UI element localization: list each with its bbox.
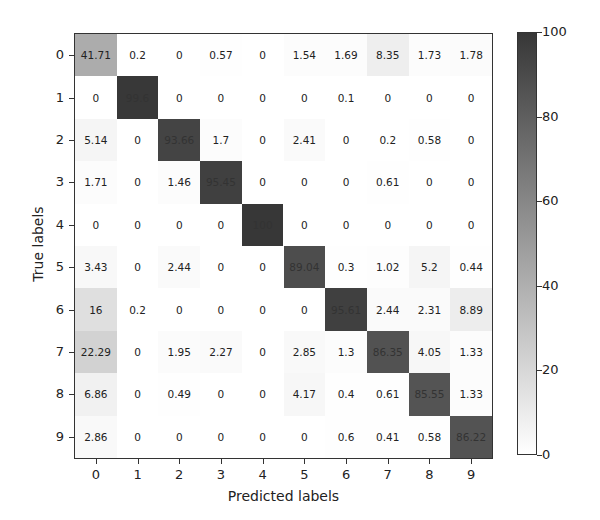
- y-tick-label: 1: [44, 90, 64, 105]
- matrix-cell: 2.44: [158, 246, 200, 288]
- y-tick-mark: [69, 98, 74, 99]
- matrix-cell: 0: [284, 416, 326, 458]
- matrix-cell: 0: [242, 161, 284, 203]
- matrix-cell: 2.31: [409, 288, 451, 330]
- colorbar-tick-label: 80: [542, 109, 559, 124]
- matrix-cell: 0: [367, 204, 409, 246]
- matrix-cell: 0: [158, 34, 200, 76]
- colorbar-tick-mark: [537, 370, 542, 371]
- matrix-cell: 0: [450, 76, 492, 118]
- matrix-cell: 22.29: [75, 331, 117, 373]
- colorbar-tick-mark: [537, 117, 542, 118]
- x-tick-label: 1: [128, 467, 148, 482]
- matrix-cell: 0.4: [325, 373, 367, 415]
- matrix-cell: 0: [117, 204, 159, 246]
- matrix-cell: 4.17: [284, 373, 326, 415]
- y-tick-mark: [69, 352, 74, 353]
- y-tick-mark: [69, 225, 74, 226]
- matrix-cell: 0: [75, 76, 117, 118]
- matrix-cell: 16: [75, 288, 117, 330]
- matrix-cell: 0.2: [117, 288, 159, 330]
- matrix-cell: 0: [242, 288, 284, 330]
- matrix-cell: 4.05: [409, 331, 451, 373]
- matrix-cell: 0: [200, 373, 242, 415]
- matrix-cell: 0: [409, 76, 451, 118]
- matrix-cell: 0: [409, 204, 451, 246]
- matrix-cell: 0.2: [367, 119, 409, 161]
- matrix-cell: 100: [242, 204, 284, 246]
- matrix-cell: 0: [367, 76, 409, 118]
- matrix-cell: 86.22: [450, 416, 492, 458]
- x-tick-label: 0: [86, 467, 106, 482]
- matrix-cell: 89.04: [284, 246, 326, 288]
- colorbar-tick-label: 40: [542, 278, 559, 293]
- x-tick-label: 3: [211, 467, 231, 482]
- confusion-matrix-plot: 41.710.200.5701.541.698.351.731.78099.60…: [74, 33, 493, 459]
- matrix-cell: 0.1: [325, 76, 367, 118]
- y-tick-mark: [69, 182, 74, 183]
- matrix-cell: 1.7: [200, 119, 242, 161]
- matrix-cell: 5.2: [409, 246, 451, 288]
- matrix-cell: 0.49: [158, 373, 200, 415]
- x-tick-mark: [221, 459, 222, 464]
- matrix-cell: 1.3: [325, 331, 367, 373]
- colorbar: [517, 32, 537, 455]
- x-tick-mark: [138, 459, 139, 464]
- matrix-cell: 0: [200, 288, 242, 330]
- matrix-cell: 2.27: [200, 331, 242, 373]
- x-axis-label: Predicted labels: [74, 488, 493, 504]
- matrix-cell: 86.35: [367, 331, 409, 373]
- matrix-cell: 2.85: [284, 331, 326, 373]
- x-tick-label: 4: [253, 467, 273, 482]
- matrix-cell: 0: [242, 34, 284, 76]
- colorbar-tick-mark: [537, 201, 542, 202]
- matrix-cell: 2.41: [284, 119, 326, 161]
- x-tick-label: 2: [169, 467, 189, 482]
- matrix-cell: 2.86: [75, 416, 117, 458]
- matrix-cell: 0: [200, 416, 242, 458]
- y-tick-label: 4: [44, 217, 64, 232]
- x-tick-label: 8: [419, 467, 439, 482]
- matrix-cell: 0.44: [450, 246, 492, 288]
- matrix-cell: 0: [158, 76, 200, 118]
- matrix-cell: 5.14: [75, 119, 117, 161]
- x-tick-label: 7: [378, 467, 398, 482]
- matrix-cell: 0: [242, 373, 284, 415]
- y-tick-mark: [69, 310, 74, 311]
- matrix-cell: 1.95: [158, 331, 200, 373]
- y-tick-label: 7: [44, 344, 64, 359]
- matrix-cell: 0: [158, 416, 200, 458]
- matrix-cell: 0: [200, 76, 242, 118]
- matrix-cell: 0.3: [325, 246, 367, 288]
- x-tick-mark: [429, 459, 430, 464]
- y-tick-mark: [69, 394, 74, 395]
- matrix-cell: 93.66: [158, 119, 200, 161]
- matrix-cell: 0: [117, 416, 159, 458]
- matrix-cell: 0.58: [409, 416, 451, 458]
- matrix-cell: 1.71: [75, 161, 117, 203]
- x-tick-mark: [263, 459, 264, 464]
- matrix-cell: 0.61: [367, 161, 409, 203]
- y-tick-label: 9: [44, 429, 64, 444]
- matrix-cell: 0: [325, 161, 367, 203]
- matrix-cell: 0.6: [325, 416, 367, 458]
- matrix-cell: 41.71: [75, 34, 117, 76]
- colorbar-tick-label: 60: [542, 193, 559, 208]
- matrix-cell: 0: [75, 204, 117, 246]
- colorbar-tick-label: 100: [542, 24, 567, 39]
- matrix-cell: 0: [450, 161, 492, 203]
- y-tick-mark: [69, 55, 74, 56]
- matrix-cell: 0: [200, 204, 242, 246]
- colorbar-tick-mark: [537, 32, 542, 33]
- matrix-cell: 0: [284, 288, 326, 330]
- matrix-cell: 8.89: [450, 288, 492, 330]
- matrix-cell: 0: [325, 119, 367, 161]
- y-tick-label: 8: [44, 386, 64, 401]
- y-tick-mark: [69, 437, 74, 438]
- matrix-cell: 0: [117, 331, 159, 373]
- matrix-cell: 0: [158, 204, 200, 246]
- y-tick-label: 0: [44, 47, 64, 62]
- matrix-cell: 0: [284, 204, 326, 246]
- y-axis-label: True labels: [30, 184, 46, 304]
- matrix-cell: 0.57: [200, 34, 242, 76]
